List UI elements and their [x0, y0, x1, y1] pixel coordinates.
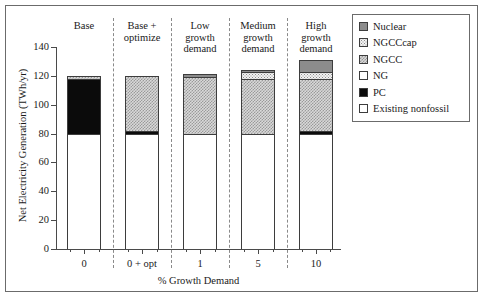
bar-column-5[interactable]: [241, 0, 275, 297]
y-tick-label-100: 100: [5, 100, 49, 110]
bar-segment-existing-nonfossil[interactable]: [125, 134, 159, 249]
y-tick-0: [51, 249, 56, 250]
ng-swatch-icon: [359, 71, 368, 80]
bar-segment-ngcc[interactable]: [241, 79, 275, 134]
y-axis-line: [56, 47, 57, 250]
chart-page: Net Electricity Generation (TWh/yr) 140 …: [0, 0, 483, 297]
legend-label-nuclear: Nuclear: [373, 21, 406, 32]
existing-nonfossil-swatch-icon: [359, 104, 368, 113]
bar-column-0[interactable]: [67, 0, 101, 297]
legend-label-ngcccap: NGCCcap: [373, 37, 417, 48]
bar-segment-existing-nonfossil[interactable]: [183, 134, 217, 249]
group-separator-2: [171, 18, 172, 268]
bar-segment-existing-nonfossil[interactable]: [67, 134, 101, 249]
nuclear-swatch-icon: [359, 22, 368, 31]
legend-label-ngcc: NGCC: [373, 54, 402, 65]
pc-swatch-icon: [359, 88, 368, 97]
legend-item-nuclear[interactable]: Nuclear: [359, 20, 463, 32]
y-tick-60: [51, 162, 56, 163]
y-tick-120: [51, 76, 56, 77]
legend-item-ngcc[interactable]: NGCC: [359, 53, 463, 65]
bar-segment-ngcccap[interactable]: [299, 72, 333, 79]
legend-item-ng[interactable]: NG: [359, 70, 463, 82]
bar-segment-ngcc[interactable]: [125, 76, 159, 131]
legend: Nuclear NGCCcap NGCC NG PC Existing nonf…: [352, 14, 470, 122]
group-separator-3: [229, 18, 230, 268]
y-tick-20: [51, 220, 56, 221]
bar-segment-pc[interactable]: [67, 79, 101, 134]
bar-segment-existing-nonfossil[interactable]: [241, 134, 275, 249]
y-tick-40: [51, 191, 56, 192]
legend-label-pc: PC: [373, 87, 386, 98]
legend-item-existing-nonfossil[interactable]: Existing nonfossil: [359, 103, 463, 115]
y-tick-label-0: 0: [5, 244, 49, 254]
bar-segment-ngcc[interactable]: [299, 79, 333, 131]
ngcc-swatch-icon: [359, 55, 368, 64]
ngcccap-swatch-icon: [359, 38, 368, 47]
group-separator-4: [287, 18, 288, 268]
y-tick-label-60: 60: [5, 157, 49, 167]
y-axis-tick-labels: 140 120 100 80 60 40 20 0: [0, 0, 49, 297]
y-tick-80: [51, 134, 56, 135]
bar-segment-nuclear[interactable]: [241, 70, 275, 71]
bar-segment-nuclear[interactable]: [299, 60, 333, 72]
legend-label-existing-nonfossil: Existing nonfossil: [373, 103, 449, 114]
y-tick-140: [51, 47, 56, 48]
bar-segment-existing-nonfossil[interactable]: [299, 134, 333, 249]
bar-segment-ngcc[interactable]: [183, 77, 217, 133]
bar-segment-pc[interactable]: [299, 131, 333, 134]
y-tick-label-20: 20: [5, 215, 49, 225]
bar-segment-pc[interactable]: [125, 131, 159, 134]
legend-item-ngcccap[interactable]: NGCCcap: [359, 37, 463, 49]
bar-segment-nuclear[interactable]: [183, 74, 217, 77]
bar-segment-ngcccap[interactable]: [241, 72, 275, 79]
y-tick-label-140: 140: [5, 42, 49, 52]
legend-item-pc[interactable]: PC: [359, 86, 463, 98]
y-tick-label-80: 80: [5, 129, 49, 139]
bar-column-10[interactable]: [299, 0, 333, 297]
legend-label-ng: NG: [373, 70, 388, 81]
bar-column-1[interactable]: [183, 0, 217, 297]
y-tick-label-120: 120: [5, 71, 49, 81]
bar-segment-ngcc[interactable]: [67, 76, 101, 79]
bar-column-0-opt[interactable]: [125, 0, 159, 297]
y-tick-label-40: 40: [5, 186, 49, 196]
group-separator-1: [113, 18, 114, 268]
y-tick-100: [51, 105, 56, 106]
